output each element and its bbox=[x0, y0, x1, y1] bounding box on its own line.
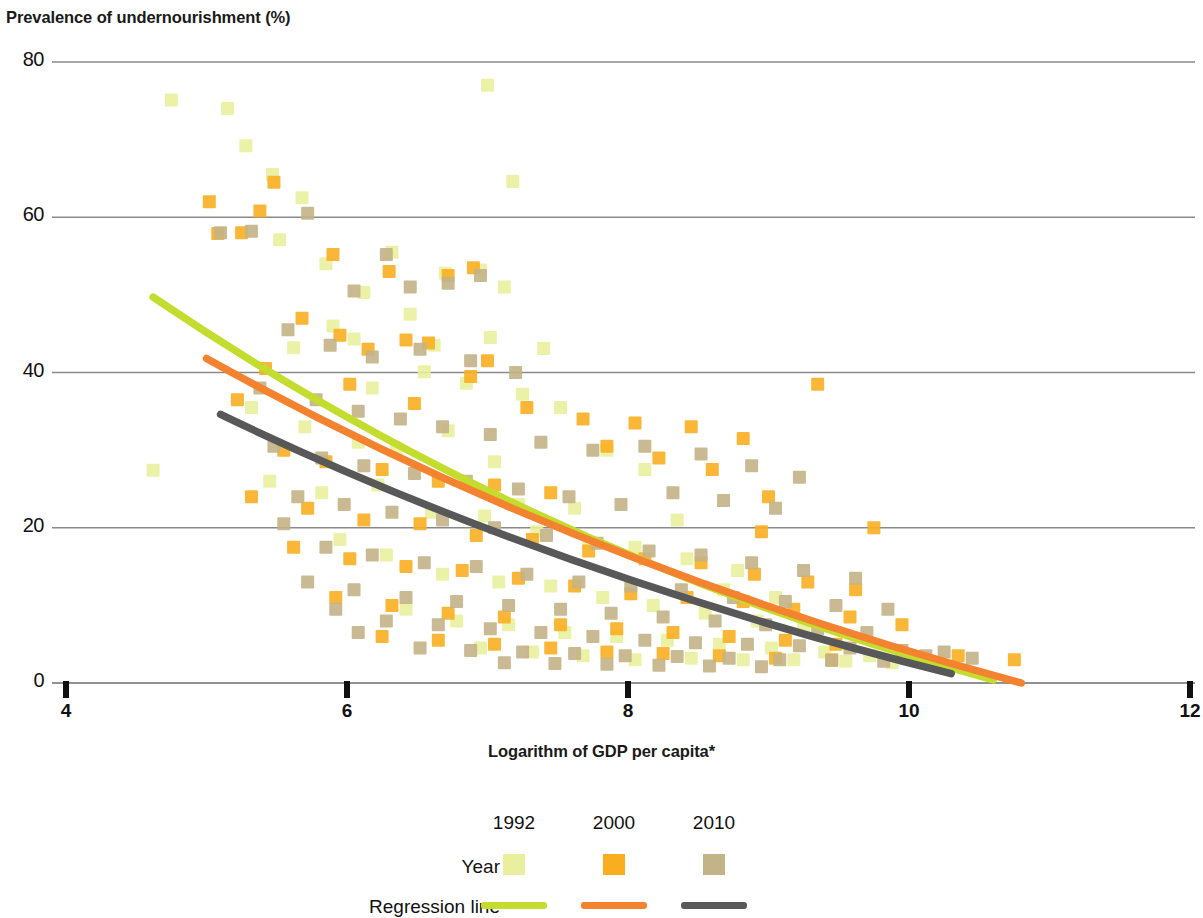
scatter-point bbox=[731, 564, 744, 577]
scatter-point bbox=[326, 248, 339, 261]
scatter-point bbox=[432, 634, 445, 647]
scatter-point bbox=[414, 642, 427, 655]
scatter-point bbox=[681, 552, 694, 565]
scatter-point bbox=[343, 378, 356, 391]
x-axis-title: Logarithm of GDP per capita* bbox=[0, 742, 1203, 761]
scatter-point bbox=[797, 564, 810, 577]
scatter-point bbox=[380, 548, 393, 561]
scatter-point bbox=[324, 339, 337, 352]
scatter-point bbox=[867, 521, 880, 534]
regression-line-1992 bbox=[153, 297, 993, 680]
scatter-point bbox=[709, 614, 722, 627]
scatter-point bbox=[895, 618, 908, 631]
scatter-point bbox=[464, 354, 477, 367]
scatter-point bbox=[498, 281, 511, 294]
scatter-point bbox=[287, 541, 300, 554]
scatter-point bbox=[366, 350, 379, 363]
y-axis-tick-label: 40 bbox=[0, 359, 44, 382]
scatter-point bbox=[366, 382, 379, 395]
scatter-point bbox=[695, 548, 708, 561]
scatter-point bbox=[512, 482, 525, 495]
legend-marker-swatch bbox=[703, 854, 725, 875]
scatter-point bbox=[717, 494, 730, 507]
scatter-point bbox=[263, 475, 276, 488]
scatter-point bbox=[779, 595, 792, 608]
legend-row-label-year: Year bbox=[352, 856, 500, 878]
scatter-point bbox=[652, 451, 665, 464]
scatter-point bbox=[352, 626, 365, 639]
scatter-point bbox=[376, 630, 389, 643]
scatter-point bbox=[629, 416, 642, 429]
scatter-point bbox=[203, 195, 216, 208]
scatter-point bbox=[484, 428, 497, 441]
scatter-point bbox=[966, 652, 979, 665]
scatter-point bbox=[502, 599, 515, 612]
scatter-point bbox=[657, 647, 670, 660]
scatter-point bbox=[537, 342, 550, 355]
scatter-point bbox=[671, 513, 684, 526]
scatter-point bbox=[657, 611, 670, 624]
scatter-point bbox=[548, 657, 561, 670]
scatter-point bbox=[380, 614, 393, 627]
scatter-point bbox=[376, 463, 389, 476]
scatter-point bbox=[470, 560, 483, 573]
scatter-point bbox=[703, 659, 716, 672]
scatter-point bbox=[267, 176, 280, 189]
scatter-point bbox=[400, 591, 413, 604]
scatter-point bbox=[723, 630, 736, 643]
scatter-point bbox=[787, 653, 800, 666]
scatter-point bbox=[769, 502, 782, 515]
scatter-point bbox=[1008, 653, 1021, 666]
scatter-point bbox=[755, 660, 768, 673]
scatter-point bbox=[301, 576, 314, 589]
y-axis-tick-label: 20 bbox=[0, 514, 44, 537]
scatter-point bbox=[586, 630, 599, 643]
legend-line-swatch bbox=[581, 902, 647, 909]
scatter-point bbox=[383, 265, 396, 278]
scatter-point bbox=[404, 308, 417, 321]
scatter-point bbox=[568, 647, 581, 660]
scatter-point bbox=[638, 463, 651, 476]
scatter-point bbox=[520, 401, 533, 414]
legend-row-label-regression: Regression line bbox=[232, 896, 500, 918]
scatter-point bbox=[348, 333, 361, 346]
x-axis-tick bbox=[625, 681, 631, 698]
scatter-point bbox=[586, 444, 599, 457]
scatter-point bbox=[689, 636, 702, 649]
scatter-point bbox=[333, 533, 346, 546]
scatter-point bbox=[755, 525, 768, 538]
scatter-point bbox=[706, 463, 719, 476]
scatter-point bbox=[418, 556, 431, 569]
scatter-point bbox=[488, 455, 501, 468]
scatter-point bbox=[366, 548, 379, 561]
legend-line-swatch bbox=[481, 902, 547, 909]
scatter-plot-canvas bbox=[0, 0, 1203, 740]
scatter-point bbox=[400, 333, 413, 346]
scatter-point bbox=[414, 343, 427, 356]
scatter-point bbox=[741, 638, 754, 651]
scatter-point bbox=[544, 642, 557, 655]
y-axis-tick-label: 80 bbox=[0, 48, 44, 71]
scatter-point bbox=[554, 618, 567, 631]
scatter-point bbox=[600, 658, 613, 671]
scatter-point bbox=[762, 490, 775, 503]
scatter-point bbox=[737, 653, 750, 666]
scatter-point bbox=[245, 401, 258, 414]
scatter-point bbox=[544, 579, 557, 592]
scatter-point bbox=[572, 576, 585, 589]
scatter-point bbox=[474, 269, 487, 282]
scatter-point bbox=[287, 341, 300, 354]
scatter-point bbox=[147, 464, 160, 477]
scatter-point bbox=[614, 498, 627, 511]
legend-year-header: 2000 bbox=[569, 812, 659, 834]
scatter-point bbox=[600, 440, 613, 453]
scatter-point bbox=[165, 94, 178, 107]
scatter-point bbox=[214, 226, 227, 239]
scatter-point bbox=[348, 284, 361, 297]
scatter-point bbox=[596, 591, 609, 604]
scatter-point bbox=[481, 79, 494, 92]
scatter-point bbox=[436, 568, 449, 581]
scatter-point bbox=[481, 354, 494, 367]
scatter-point bbox=[773, 653, 786, 666]
